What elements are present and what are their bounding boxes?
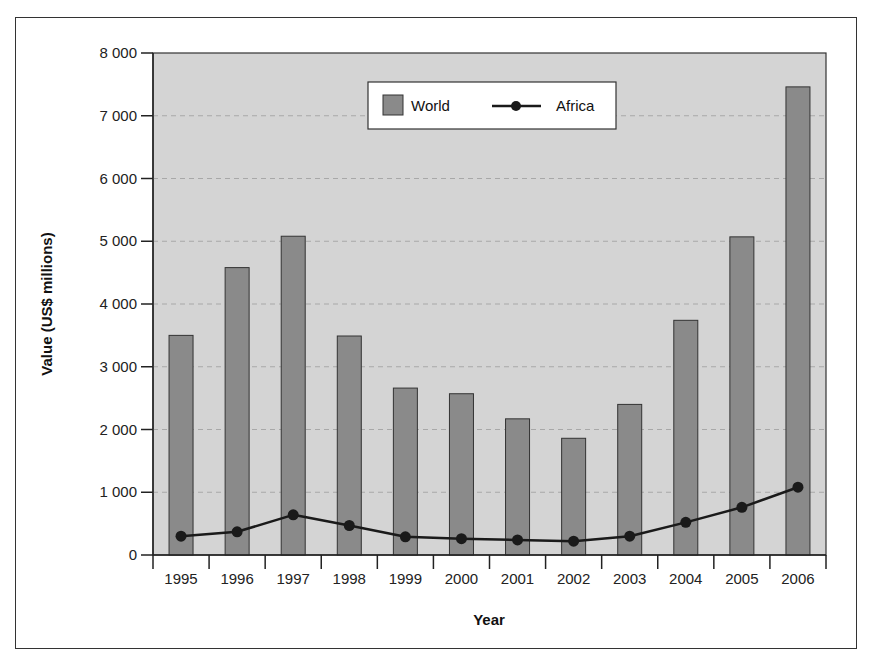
africa-point	[344, 520, 355, 531]
africa-point	[400, 531, 411, 542]
y-tick-label: 4 000	[99, 295, 137, 312]
x-axis-title: Year	[473, 611, 505, 628]
bar-world	[169, 335, 193, 555]
legend-world-label: World	[411, 97, 450, 114]
y-tick-label: 1 000	[99, 483, 137, 500]
bar-world	[393, 388, 417, 555]
x-tick-label: 1999	[389, 570, 422, 587]
legend-africa-label: Africa	[556, 97, 595, 114]
chart: 01 0002 0003 0004 0005 0006 0007 0008 00…	[0, 0, 876, 672]
bar-world	[281, 236, 305, 555]
y-tick-label: 2 000	[99, 421, 137, 438]
africa-point	[288, 509, 299, 520]
africa-point	[624, 531, 635, 542]
y-axis-title: Value (US$ millions)	[38, 232, 55, 375]
x-tick-label: 2006	[781, 570, 814, 587]
africa-point	[176, 531, 187, 542]
x-tick-label: 2002	[557, 570, 590, 587]
africa-point	[512, 534, 523, 545]
x-tick-label: 2001	[501, 570, 534, 587]
africa-point	[456, 533, 467, 544]
africa-point	[680, 517, 691, 528]
legend-world-swatch-icon	[383, 95, 403, 115]
y-axis: 01 0002 0003 0004 0005 0006 0007 0008 00…	[99, 44, 153, 563]
bar-world	[449, 394, 473, 555]
y-tick-label: 7 000	[99, 107, 137, 124]
x-tick-label: 2005	[725, 570, 758, 587]
x-tick-label: 2004	[669, 570, 702, 587]
africa-point	[792, 482, 803, 493]
bar-world	[225, 268, 249, 555]
x-tick-label: 2000	[445, 570, 478, 587]
x-tick-label: 2003	[613, 570, 646, 587]
africa-point	[232, 526, 243, 537]
x-axis: 1995199619971998199920002001200220032004…	[153, 555, 826, 587]
africa-point	[568, 536, 579, 547]
y-tick-label: 3 000	[99, 358, 137, 375]
x-tick-label: 1998	[333, 570, 366, 587]
africa-point	[736, 502, 747, 513]
x-tick-label: 1995	[164, 570, 197, 587]
legend: World Africa	[368, 82, 616, 129]
y-tick-label: 5 000	[99, 232, 137, 249]
x-tick-label: 1997	[277, 570, 310, 587]
y-tick-label: 6 000	[99, 170, 137, 187]
y-tick-label: 8 000	[99, 44, 137, 61]
legend-africa-marker-icon	[511, 101, 521, 111]
y-tick-label: 0	[129, 546, 137, 563]
x-tick-label: 1996	[220, 570, 253, 587]
